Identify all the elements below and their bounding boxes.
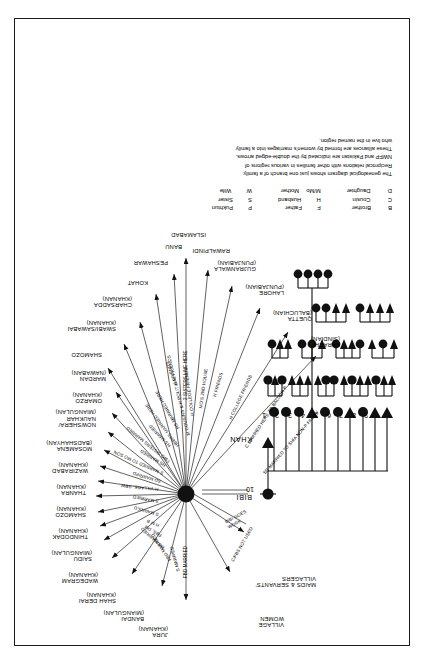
child-number-2: 2 [275,412,279,418]
place-label-thindodak: THINDODAK (KHANAN) [52,527,88,540]
place-label-shamozo: SHAMOZO (KHANAN) [55,505,86,518]
legend-abbr: P [248,205,252,211]
legend-abbr: S [248,197,252,203]
figure-border: JURA (KHANAN) BANDAI (MIANGULAN) SHAH DE… [14,18,410,646]
caption-line: NWFP and Pakistan are indicated by the d… [212,153,392,161]
place-label-saidu: SAIDU (MIANGULAN) [51,549,92,562]
legend-row: M/Mo Mother [278,187,321,195]
legend-row: F Father [278,204,321,212]
caption-line: Reciprocal relations with other families… [212,161,392,169]
rotated-figure-wrapper: JURA (KHANAN) BANDAI (MIANGULAN) SHAH DE… [16,20,408,644]
place-label-kohat: KOHAT [127,280,148,286]
figure-page: JURA (KHANAN) BANDAI (MIANGULAN) SHAH DE… [0,0,425,663]
place-label-shamozo-2: SHAMOZO [71,352,102,358]
legend-term: Daughter [347,188,371,194]
legend-abbr: M/Mo [306,188,321,194]
place-label-nowshera: NOWSHERA/ NAUKHAR (MIANGULAN) [55,409,96,428]
caption-line: These alliances are formed by women's ma… [212,145,392,153]
place-label-mosamena: MOSAMENA (BADSHAHYAN) [46,439,92,452]
relation-jura: FBD MARRIED [183,546,189,578]
legend-abbr: C [388,197,392,203]
child-10 [381,407,393,418]
legend-term: Brother [352,205,371,211]
child-number-10: 10 [246,486,254,492]
legend-column-3: P Pukhtun S Sister W [212,187,252,212]
child-number-6: 6 [327,412,331,418]
child-number-1: 1 [262,412,266,418]
legend-abbr: B [388,205,392,211]
legend-row: P Pukhtun [212,204,252,212]
place-label-wazirabad: WAZIRABAD (KHANAN) [52,461,88,474]
legend-term: Wife [220,188,232,194]
place-label-shah-derai: SHAH DERAI (KHANAN) [79,591,116,604]
legend-column-1: B Brother C Cousin D [347,187,392,212]
legend-abbr: F [317,205,321,211]
relation-islamabad: 2 SISTERS LIVE HERE [183,350,189,400]
child-number-9: 9 [364,412,368,418]
legend-columns: B Brother C Cousin D [212,187,392,212]
label-khan: KHAN [230,436,252,442]
child-number-4: 4 [301,412,305,418]
place-label-jura: JURA (KHANAN) [138,625,168,638]
legend-row: H Husband [278,195,321,203]
place-label-omarzo: OMARZO (KHANAN) [72,391,102,404]
label-maids-servants: MAIDS & SERVANTS' VILLAGERS [255,575,316,588]
node-khan [262,437,274,448]
legend-term: Father [285,205,302,211]
place-label-mardan: MARDAN (NAWABAN) [71,369,106,382]
caption-block: The genealogical diagram shows just one … [212,137,392,178]
place-label-swabi: SWABI/SAWABAI (KHANAN) [67,319,116,332]
legend-row: W Wife [212,187,252,195]
place-label-gujranwala: GUJRANWALA (PUNJABIAN) [214,259,256,272]
legend-term: Mother [281,188,299,194]
node-bibi [263,489,274,500]
child-number-8: 8 [352,412,356,418]
legend-row: S Sister [212,195,252,203]
legend-term: Husband [278,197,301,203]
child-number-3: 3 [288,412,292,418]
legend-row: B Brother [347,204,392,212]
label-village-women: VILLAGE WOMEN [258,615,284,628]
legend-term: Cousin [353,197,371,203]
place-label-bandai: BANDAI (MIANGULAN) [103,609,144,622]
child-number-7: 7 [339,412,343,418]
place-label-quetta: QUETTA (BALUCHIAN) [273,309,312,322]
place-label-lahore: LAHORE (PUNJABIAN) [245,283,284,296]
legend-term: Sister [218,197,233,203]
legend-row: D Daughter [347,187,392,195]
legend-term: Pukhtun [212,205,233,211]
place-label-thanra: THANRA (KHANAN) [56,483,86,496]
hub-node [178,486,195,503]
legend-block: B Brother C Cousin D [212,137,392,212]
legend-abbr: H [317,197,321,203]
place-label-peshawar: PESHAWAR [134,260,168,266]
place-label-banu: BANU [165,244,182,250]
legend-column-2: F Father H Husband M/Mo [278,187,321,212]
caption-line: who live in the named region. [212,137,392,145]
caption-line: The genealogical diagram shows just one … [212,170,392,178]
child-9 [369,407,381,418]
child-number-5: 5 [314,412,318,418]
label-bibi: BIBI [236,494,252,500]
legend-abbr: W [247,188,252,194]
figure-canvas: JURA (KHANAN) BANDAI (MIANGULAN) SHAH DE… [16,20,408,644]
place-label-rawalpindi: RAWALPINDI [192,248,230,254]
legend-abbr: D [388,188,392,194]
place-label-wadegram: WADEGRAM (KHANAN) [62,571,98,584]
place-label-islamabad: ISLAMABAD [171,232,206,238]
place-label-charsadda: CHARSADDA (KHANAN) [94,295,132,308]
legend-row: C Cousin [347,195,392,203]
place-label-karachi: KARACHI (SINDIAN) [311,335,340,348]
